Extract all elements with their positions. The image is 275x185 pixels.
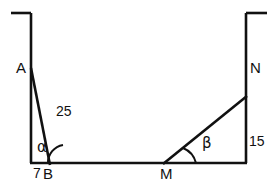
- angle-label-alpha: α: [37, 140, 47, 155]
- figure-canvas: [0, 0, 275, 185]
- measure-label-ab: 25: [56, 104, 72, 118]
- measure-label-right-wall: 15: [249, 134, 265, 148]
- measure-label-base-left: 7: [33, 166, 41, 180]
- geometry-figure: A N B M 25 15 7 α β: [0, 0, 275, 185]
- vertex-label-m: M: [160, 166, 173, 181]
- vertex-label-b: B: [43, 166, 53, 181]
- segment-mn: [163, 96, 247, 164]
- vertex-label-n: N: [250, 60, 261, 75]
- vertex-label-a: A: [16, 60, 26, 75]
- angle-label-beta: β: [202, 136, 212, 151]
- angle-arc-beta: [183, 148, 196, 163]
